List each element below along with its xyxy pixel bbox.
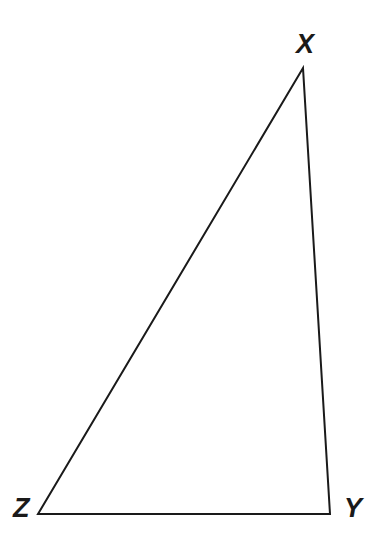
triangle-drawing [0, 0, 383, 557]
triangle-figure: X Y Z [0, 0, 383, 557]
vertex-label-y: Y [344, 495, 362, 522]
triangle-outline [38, 68, 330, 514]
vertex-label-x: X [296, 31, 314, 58]
vertex-label-z: Z [13, 495, 30, 522]
